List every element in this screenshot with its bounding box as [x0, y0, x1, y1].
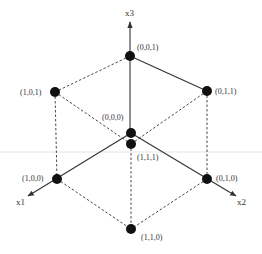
vertex-101	[50, 87, 60, 97]
vertex-110-label: (1,1,0)	[141, 233, 163, 242]
x1-axis-label: x1	[16, 197, 25, 207]
edge-100-110	[57, 179, 131, 229]
vertex-011-label: (0,1,1)	[215, 87, 237, 96]
vertices	[50, 51, 212, 234]
solid-edges	[28, 22, 236, 196]
x2-axis	[131, 133, 236, 196]
edge-011-111	[131, 91, 207, 144]
vertex-100-label: (1,0,0)	[22, 174, 44, 183]
x1-axis	[28, 133, 131, 196]
vertex-101-label: (1,0,1)	[20, 88, 42, 97]
x2-axis-label: x2	[237, 197, 246, 207]
vertex-001	[125, 51, 135, 61]
edge-101-100	[55, 92, 57, 179]
edge-001-101	[55, 56, 130, 92]
vertex-111-label: (1,1,1)	[137, 153, 159, 162]
vertex-100	[52, 174, 62, 184]
cube-diagram: x3 x1 x2 (0,0,1) (1,0,1) (0,1,1) (0,0,0)…	[0, 0, 262, 254]
vertex-010-label: (0,1,0)	[216, 174, 238, 183]
vertex-010	[202, 174, 212, 184]
vertex-001-label: (0,0,1)	[137, 43, 159, 52]
edge-010-110	[131, 179, 207, 229]
vertex-000	[126, 128, 136, 138]
vertex-000-label: (0,0,0)	[102, 113, 124, 122]
vertex-111	[126, 139, 136, 149]
vertex-011	[202, 86, 212, 96]
vertex-110	[126, 224, 136, 234]
x3-axis-label: x3	[125, 8, 135, 18]
edge-001-011	[130, 56, 207, 91]
